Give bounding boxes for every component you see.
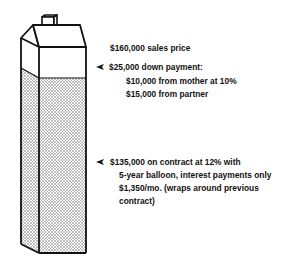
contract-line: 5-year balloon, interest payments only — [119, 169, 271, 182]
contract-line: $135,000 on contract at 12% with — [110, 156, 241, 169]
down-payment-line: $15,000 from partner — [126, 88, 208, 101]
arrowhead-left-icon — [96, 64, 104, 70]
down-payment-line: $10,000 from mother at 10% — [126, 75, 237, 88]
house-column-illustration — [0, 0, 295, 269]
financed-section-front — [39, 78, 86, 253]
down-payment-title: $25,000 down payment: — [109, 61, 203, 74]
arrowhead-left-icon — [96, 159, 104, 165]
contract-line: $1,350/mo. (wraps around previous — [119, 182, 259, 195]
sales-price-label: $160,000 sales price — [110, 42, 190, 55]
financed-section — [21, 68, 39, 253]
contract-line: contract) — [119, 195, 155, 208]
